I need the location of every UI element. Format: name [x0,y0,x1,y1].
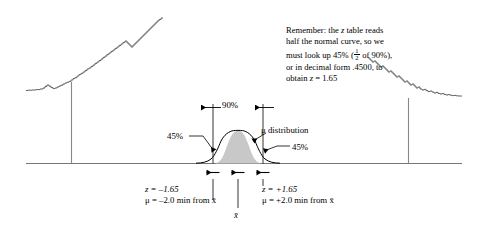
remember-text-3b: of 90%), [360,50,392,60]
left-45-leader [189,136,214,151]
right-mu-value-label: μ = +2.0 min from x̄ [262,195,334,206]
center-xbar-label: x̄ [234,210,238,221]
mu-distribution-label: μ distribution [261,125,308,136]
shaded-90-percent-region [213,131,263,164]
remember-text-4: or in decimal form .4500, to [286,62,383,72]
left-z-value-label: z = –1.65 [145,184,179,195]
left-45-percent-label: 45% [167,131,183,142]
right-45-percent-label: 45% [292,142,308,153]
remember-text-5a: obtain [286,73,310,83]
remember-text-1: Remember: the [286,25,341,35]
right-45-leader [264,146,290,151]
remember-text-3a: must look up 45% ( [286,50,354,60]
remember-text-2: half the normal curve, so we [286,36,384,46]
fraction-denominator: 2 [354,54,359,62]
one-half-fraction: 12 [354,48,359,62]
remember-annotation: Remember: the z table reads half the nor… [286,25,436,85]
left-mu-value-label: μ = –2.0 min from x̄ [145,195,216,206]
span-90-percent-label: 90% [222,100,238,111]
right-z-value-label: z = +1.65 [262,184,297,195]
remember-text-5b: = 1.65 [313,73,337,83]
left-jagged-trace [26,18,163,91]
remember-text-1b: table reads [344,25,383,35]
statistics-figure: Remember: the z table reads half the nor… [0,0,482,233]
